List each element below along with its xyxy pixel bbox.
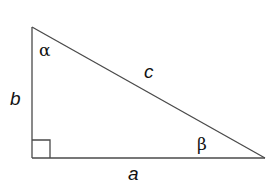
side-c-hypotenuse-line xyxy=(32,27,265,158)
side-b-label: b xyxy=(10,88,21,109)
right-angle-marker xyxy=(32,140,50,158)
right-triangle-diagram: α c b β a xyxy=(0,0,280,190)
angle-beta-label: β xyxy=(197,134,207,154)
side-a-label: a xyxy=(128,163,139,184)
angle-alpha-label: α xyxy=(39,40,51,60)
side-c-label: c xyxy=(144,61,154,82)
